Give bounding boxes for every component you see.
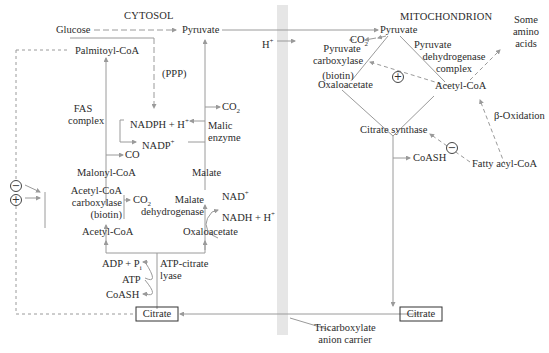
nadp-label: NADP+ bbox=[142, 136, 175, 152]
atp-label: ATP bbox=[122, 274, 141, 286]
pdh-line-2: dehydrogenase bbox=[414, 51, 494, 63]
acc-line-2: carboxylase bbox=[52, 197, 122, 209]
h-sup: + bbox=[270, 37, 274, 45]
pc-line-2: carboxylase bbox=[305, 55, 371, 67]
acl-line-1: ATP-citrate bbox=[160, 258, 208, 270]
pdh-line-1: Pyruvate bbox=[414, 39, 494, 51]
carrier-line-2: anion carrier bbox=[300, 334, 390, 346]
inhibit-symbol: − bbox=[10, 180, 22, 192]
pdh-line-3: complex bbox=[414, 63, 494, 75]
pc-line-1: Pyruvate bbox=[305, 43, 371, 55]
malate-dh-label: Malate dehydrogenase bbox=[138, 194, 204, 218]
nadh-text: NADH + H bbox=[222, 212, 271, 223]
tricarboxylate-carrier-label: Tricarboxylate anion carrier bbox=[300, 322, 390, 346]
mito-oxaloacetate-label: Oxaloacetate bbox=[318, 79, 373, 91]
ppp-label: (PPP) bbox=[162, 68, 187, 80]
aa-line-2: amino bbox=[508, 26, 544, 38]
malic-enzyme-label: Malic enzyme bbox=[208, 120, 241, 144]
pi-sub: i bbox=[140, 264, 142, 272]
acc-line-3: (biotin) bbox=[52, 209, 122, 221]
cytosol-label: CYTOSOL bbox=[124, 10, 174, 22]
mito-pyruvate-label: Pyruvate bbox=[380, 24, 417, 36]
nad-label: NAD+ bbox=[222, 187, 249, 203]
fas-line-1: FAS bbox=[68, 103, 98, 115]
co-label: CO bbox=[125, 149, 140, 161]
amino-acids-label: Some amino acids bbox=[508, 14, 544, 50]
nad-sup: + bbox=[245, 189, 249, 197]
nadph-sup: + bbox=[185, 117, 189, 125]
acc-line-1: Acetyl-CoA bbox=[52, 185, 122, 197]
nadh-sup: + bbox=[271, 210, 275, 218]
aa-line-1: Some bbox=[508, 14, 544, 26]
citrate-synthase-label: Citrate synthase bbox=[360, 124, 427, 136]
cytosol-oxaloacetate-label: Oxaloacetate bbox=[183, 226, 238, 238]
nadh-label: NADH + H+ bbox=[222, 208, 275, 224]
carrier-line-1: Tricarboxylate bbox=[300, 322, 390, 334]
mito-acetyl-coa-label: Acetyl-CoA bbox=[435, 80, 486, 92]
malic-co2-label: CO2 bbox=[222, 101, 240, 117]
acl-line-2: lyase bbox=[160, 270, 208, 282]
nadph-label: NADPH + H+ bbox=[130, 115, 189, 131]
fas-line-2: complex bbox=[68, 115, 98, 127]
co2-text: CO bbox=[222, 101, 237, 112]
mito-inhibit-symbol: − bbox=[446, 142, 458, 154]
nad-text: NAD bbox=[222, 191, 245, 202]
mito-citrate-label: Citrate bbox=[400, 308, 442, 320]
mdh-line-2: dehydrogenase bbox=[138, 206, 204, 218]
malonyl-coa-label: Malonyl-CoA bbox=[77, 167, 136, 179]
palmitoyl-coa-label: Palmitoyl-CoA bbox=[75, 45, 139, 57]
malic-line-2: enzyme bbox=[208, 132, 241, 144]
adp-text: ADP + P bbox=[102, 258, 140, 269]
h-plus-label: H+ bbox=[262, 35, 274, 51]
beta-oxidation-label: β-Oxidation bbox=[494, 110, 545, 122]
adp-pi-label: ADP + Pi bbox=[102, 258, 142, 274]
nadph-text: NADPH + H bbox=[130, 119, 185, 130]
glucose-label: Glucose bbox=[56, 24, 90, 36]
atp-citrate-lyase-label: ATP-citrate lyase bbox=[160, 258, 208, 282]
aa-line-3: acids bbox=[508, 38, 544, 50]
malic-line-1: Malic bbox=[208, 120, 241, 132]
cytosol-acetyl-coa-label: Acetyl-CoA bbox=[82, 226, 133, 238]
mito-coash-label: CoASH bbox=[413, 152, 446, 164]
h-text: H bbox=[262, 39, 270, 50]
co2-sub: 2 bbox=[237, 107, 241, 115]
fatty-acyl-coa-label: Fatty acyl-CoA bbox=[472, 158, 537, 170]
pyruvate-carboxylase-label: Pyruvate carboxylase (biotin) bbox=[305, 43, 371, 82]
mdh-line-1: Malate bbox=[138, 194, 204, 206]
cytosol-pyruvate-label: Pyruvate bbox=[182, 24, 219, 36]
fas-complex-label: FAS complex bbox=[68, 103, 98, 127]
cytosol-coash-label: CoASH bbox=[106, 289, 139, 301]
mitochondrion-label: MITOCHONDRION bbox=[400, 11, 492, 23]
activate-symbol: + bbox=[10, 194, 22, 206]
cytosol-malate-label: Malate bbox=[192, 167, 221, 179]
cytosol-citrate-label: Citrate bbox=[136, 308, 178, 320]
nadp-text: NADP bbox=[142, 140, 171, 151]
lipogenesis-pathway-diagram: CYTOSOL MITOCHONDRION Glucose Pyruvate P… bbox=[0, 0, 549, 353]
mito-activate-symbol: + bbox=[392, 71, 404, 83]
acc-enzyme-label: Acetyl-CoA carboxylase (biotin) bbox=[52, 185, 122, 221]
pdh-complex-label: Pyruvate dehydrogenase complex bbox=[414, 39, 494, 75]
nadp-sup: + bbox=[171, 138, 175, 146]
